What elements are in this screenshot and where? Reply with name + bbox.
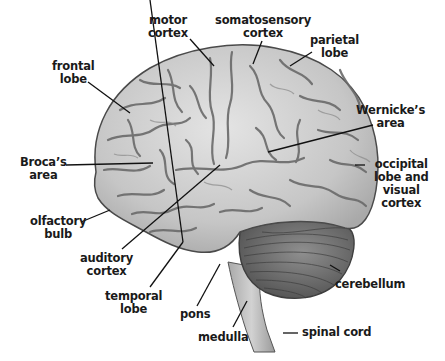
label-olfactory-bulb: olfactory bulb (30, 215, 86, 241)
label-temporal-lobe: temporal lobe (105, 290, 162, 316)
label-frontal-lobe: frontal lobe (52, 60, 95, 86)
label-motor-cortex: motor cortex (148, 14, 188, 40)
label-occipital-lobe: occipital lobe and visual cortex (374, 158, 428, 210)
label-parietal-lobe: parietal lobe (310, 34, 359, 60)
label-cerebellum: cerebellum (335, 278, 405, 291)
cerebrum (95, 45, 378, 252)
label-brocas-area: Broca’s area (20, 156, 67, 182)
label-auditory-cortex: auditory cortex (80, 252, 133, 278)
label-somatosensory-cortex: somatosensory cortex (215, 14, 311, 40)
label-medulla: medulla (198, 331, 248, 344)
brain-diagram: motor cortex somatosensory cortex pariet… (0, 0, 445, 361)
label-spinal-cord: spinal cord (302, 326, 371, 339)
label-wernickes-area: Wernicke’s area (356, 104, 425, 130)
label-pons: pons (180, 308, 210, 321)
